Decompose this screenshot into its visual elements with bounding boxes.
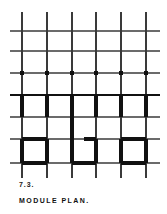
column-dot-5 [119, 71, 123, 75]
figure-number: 7.3. [19, 180, 159, 190]
figure-root: 7.3. MODULE PLAN. [0, 0, 167, 214]
column-dot-2 [45, 71, 49, 75]
figure-caption: 7.3. MODULE PLAN. [19, 180, 159, 206]
column-dot-3 [70, 71, 74, 75]
column-dot-6 [144, 71, 148, 75]
column-dot-1 [20, 71, 24, 75]
figure-title: MODULE PLAN. [19, 196, 159, 206]
column-dot-4 [94, 71, 98, 75]
